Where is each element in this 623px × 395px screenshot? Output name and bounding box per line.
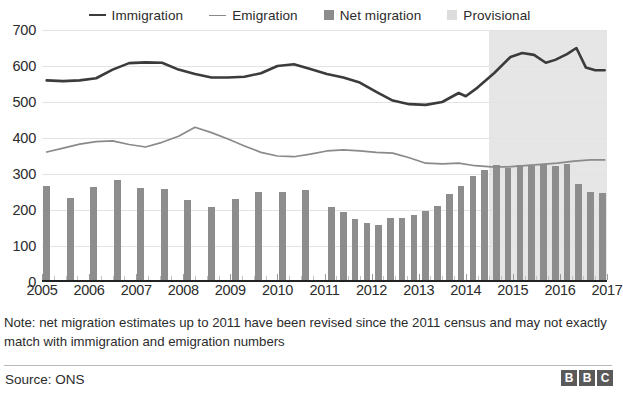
source-label: Source: ONS — [5, 372, 85, 387]
x-axis-minor-tick — [254, 276, 255, 280]
x-axis-tick-label: 2005 — [26, 282, 57, 298]
x-axis-minor-tick — [407, 276, 408, 280]
y-axis-tick-label: 700 — [12, 22, 36, 38]
x-axis-minor-tick — [160, 276, 161, 280]
x-axis-tick-label: 2012 — [356, 282, 387, 298]
x-axis-minor-tick — [536, 276, 537, 280]
plot-area: 0100200300400500600700 — [0, 30, 619, 282]
x-axis-minor-tick — [171, 276, 172, 280]
x-axis-minor-tick — [101, 276, 102, 280]
x-axis-tick-mark — [277, 274, 278, 280]
line-swatch-icon — [209, 15, 226, 16]
x-axis-minor-tick — [383, 276, 384, 280]
y-axis-tick-label: 400 — [12, 130, 36, 146]
plot-canvas — [42, 30, 607, 282]
legend-label: Net migration — [340, 8, 422, 23]
legend-label: Emigration — [232, 8, 298, 23]
x-axis-minor-tick — [572, 276, 573, 280]
x-axis-tick-label: 2009 — [215, 282, 246, 298]
x-axis-minor-tick — [113, 276, 114, 280]
x-axis-minor-tick — [348, 276, 349, 280]
line-emigration — [47, 127, 605, 167]
chart-legend: ImmigrationEmigrationNet migrationProvis… — [0, 3, 619, 27]
x-axis-minor-tick — [301, 276, 302, 280]
x-axis-tick-label: 2011 — [310, 282, 340, 298]
bbc-logo-letter: C — [597, 370, 613, 386]
x-axis-tick-mark — [513, 274, 514, 280]
x-axis-tick-label: 2008 — [168, 282, 199, 298]
x-axis-tick-mark — [136, 274, 137, 280]
line-series-layer — [42, 30, 607, 282]
x-axis-minor-tick — [54, 276, 55, 280]
x-axis-tick-mark — [560, 274, 561, 280]
x-axis-minor-tick — [242, 276, 243, 280]
x-axis-minor-tick — [195, 276, 196, 280]
x-axis-minor-tick — [77, 276, 78, 280]
x-axis-minor-tick — [525, 276, 526, 280]
y-axis-tick-label: 200 — [12, 202, 36, 218]
x-axis-tick-mark — [183, 274, 184, 280]
x-axis: 2005200620072008200920102011201220132014… — [0, 282, 619, 306]
x-axis-tick-label: 2017 — [591, 282, 622, 298]
legend-label: Immigration — [112, 8, 184, 23]
bbc-logo-letter: B — [579, 370, 595, 386]
line-swatch-icon — [89, 14, 106, 16]
x-axis-minor-tick — [489, 276, 490, 280]
x-axis-tick-label: 2013 — [403, 282, 434, 298]
x-axis-tick-mark — [42, 274, 43, 280]
bbc-logo: BBC — [561, 370, 613, 386]
x-axis-minor-tick — [207, 276, 208, 280]
footer-divider — [4, 365, 612, 366]
x-axis-minor-tick — [595, 276, 596, 280]
x-axis-minor-tick — [66, 276, 67, 280]
square-swatch-icon — [447, 10, 457, 20]
x-axis-tick-label: 2016 — [544, 282, 575, 298]
x-axis-tick-label: 2010 — [262, 282, 293, 298]
x-axis-tick-mark — [466, 274, 467, 280]
x-axis-minor-tick — [583, 276, 584, 280]
x-axis-minor-tick — [442, 276, 443, 280]
x-axis-minor-tick — [219, 276, 220, 280]
x-axis-minor-tick — [395, 276, 396, 280]
legend-item-provisional[interactable]: Provisional — [447, 8, 530, 23]
x-axis-minor-tick — [501, 276, 502, 280]
line-immigration — [47, 48, 605, 105]
legend-item-immigration[interactable]: Immigration — [89, 8, 184, 23]
x-axis-minor-tick — [148, 276, 149, 280]
x-axis-minor-tick — [548, 276, 549, 280]
y-axis-tick-label: 500 — [12, 94, 36, 110]
x-axis-tick-mark — [419, 274, 420, 280]
legend-item-emigration[interactable]: Emigration — [209, 8, 298, 23]
x-axis-tick-mark — [607, 274, 608, 280]
x-axis-minor-tick — [478, 276, 479, 280]
y-axis: 0100200300400500600700 — [0, 30, 40, 282]
x-axis-minor-tick — [124, 276, 125, 280]
x-axis-minor-tick — [430, 276, 431, 280]
y-axis-tick-label: 600 — [12, 58, 36, 74]
x-axis-minor-tick — [266, 276, 267, 280]
x-axis-tick-label: 2007 — [121, 282, 152, 298]
bbc-logo-letter: B — [561, 370, 577, 386]
x-axis-minor-tick — [336, 276, 337, 280]
legend-item-net-migration[interactable]: Net migration — [324, 8, 422, 23]
x-axis-tick-label: 2015 — [497, 282, 528, 298]
x-axis-tick-mark — [372, 274, 373, 280]
square-swatch-icon — [324, 10, 334, 20]
y-axis-tick-label: 300 — [12, 166, 36, 182]
x-axis-tick-label: 2006 — [74, 282, 105, 298]
x-axis-tick-mark — [230, 274, 231, 280]
x-axis-tick-mark — [325, 274, 326, 280]
x-axis-minor-tick — [289, 276, 290, 280]
y-axis-tick-label: 100 — [12, 238, 36, 254]
x-axis-minor-tick — [313, 276, 314, 280]
x-axis-minor-tick — [360, 276, 361, 280]
x-axis-tick-mark — [89, 274, 90, 280]
x-axis-tick-label: 2014 — [450, 282, 481, 298]
x-axis-minor-tick — [454, 276, 455, 280]
legend-label: Provisional — [463, 8, 530, 23]
chart-note: Note: net migration estimates up to 2011… — [4, 313, 612, 351]
